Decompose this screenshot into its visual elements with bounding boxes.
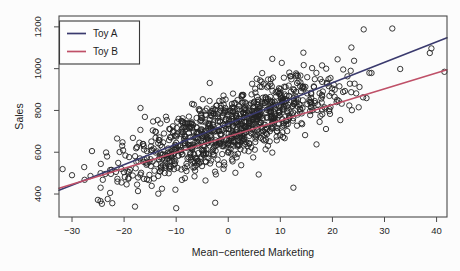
scatter-point — [107, 190, 112, 195]
scatter-point — [349, 90, 354, 95]
scatter-point — [156, 191, 161, 196]
x-axis-label: Mean−centered Marketing — [192, 246, 314, 258]
scatter-point — [309, 65, 314, 70]
scatter-point — [274, 134, 279, 139]
scatter-point — [249, 81, 254, 86]
scatter-point — [233, 170, 238, 175]
scatter-point — [138, 127, 143, 132]
scatter-point — [354, 91, 359, 96]
scatter-plot: −30−20−1001020304040060080010001200 Toy … — [0, 0, 460, 271]
x-tick-label: 0 — [226, 225, 231, 236]
scatter-point — [349, 45, 354, 50]
legend-label-toy-b: Toy B — [93, 46, 118, 57]
scatter-point — [114, 136, 119, 141]
scatter-point — [152, 168, 157, 173]
scatter-point — [317, 119, 322, 124]
scatter-point — [132, 154, 137, 159]
scatter-point — [323, 126, 328, 131]
scatter-point — [186, 114, 191, 119]
scatter-point — [301, 62, 306, 67]
scatter-point — [314, 142, 319, 147]
scatter-point — [251, 155, 256, 160]
scatter-point — [347, 103, 352, 108]
scatter-point — [260, 70, 265, 75]
scatter-point — [138, 105, 143, 110]
scatter-point — [270, 56, 275, 61]
scatter-point — [200, 97, 205, 102]
x-tick-label: −10 — [168, 225, 184, 236]
scatter-point — [154, 162, 159, 167]
scatter-point — [192, 174, 197, 179]
scatter-point — [156, 173, 161, 178]
scatter-point — [296, 79, 301, 84]
scatter-point — [161, 131, 166, 136]
scatter-point — [149, 183, 154, 188]
x-tick-label: −30 — [64, 225, 80, 236]
scatter-point — [69, 173, 74, 178]
scatter-point — [82, 164, 87, 169]
scatter-point — [203, 178, 208, 183]
scatter-point — [164, 117, 169, 122]
y-tick-label: 800 — [32, 103, 43, 119]
scatter-point — [279, 60, 284, 65]
scatter-point — [319, 63, 324, 68]
scatter-point — [207, 98, 212, 103]
scatter-point — [110, 201, 115, 206]
legend: Toy A Toy B — [60, 21, 140, 64]
scatter-point — [300, 98, 305, 103]
x-tick-label: 40 — [431, 225, 442, 236]
scatter-point — [220, 151, 225, 156]
scatter-point — [398, 66, 403, 71]
x-tick-label: 20 — [327, 225, 338, 236]
scatter-point — [60, 166, 65, 171]
scatter-point — [189, 101, 194, 106]
scatter-point — [142, 114, 147, 119]
scatter-point — [130, 135, 135, 140]
scatter-point — [270, 150, 275, 155]
scatter-point — [390, 26, 395, 31]
scatter-point — [341, 67, 346, 72]
scatter-point — [291, 185, 296, 190]
scatter-point — [357, 84, 362, 89]
scatter-point — [105, 196, 110, 201]
scatter-point — [239, 163, 244, 168]
scatter-point — [159, 186, 164, 191]
scatter-point — [294, 80, 299, 85]
scatter-point — [348, 68, 353, 73]
x-tick-label: −20 — [116, 225, 132, 236]
scatter-point — [257, 78, 262, 83]
scatter-point — [133, 166, 138, 171]
scatter-point — [356, 105, 361, 110]
y-axis-label: Sales — [13, 103, 25, 129]
scatter-point — [98, 185, 103, 190]
scatter-point — [314, 70, 319, 75]
y-tick-label: 600 — [32, 144, 43, 160]
scatter-point — [351, 58, 356, 63]
scatter-point — [221, 166, 226, 171]
scatter-point — [335, 57, 340, 62]
y-tick-label: 1000 — [32, 58, 43, 79]
scatter-point — [135, 188, 140, 193]
scatter-point — [98, 161, 103, 166]
legend-label-toy-a: Toy A — [93, 28, 118, 39]
scatter-point — [281, 75, 286, 80]
scatter-point — [230, 91, 235, 96]
scatter-point — [340, 89, 345, 94]
scatter-point — [134, 182, 139, 187]
scatter-point — [312, 77, 317, 82]
figure: −30−20−1001020304040060080010001200 Toy … — [0, 0, 460, 271]
scatter-point — [174, 206, 179, 211]
scatter-point — [256, 172, 261, 177]
scatter-point — [254, 76, 259, 81]
scatter-point — [301, 50, 306, 55]
scatter-point — [132, 204, 137, 209]
scatter-point — [215, 157, 220, 162]
x-tick-label: 10 — [275, 225, 286, 236]
scatter-point — [207, 80, 212, 85]
scatter-point — [124, 182, 129, 187]
scatter-point — [100, 177, 105, 182]
y-tick-label: 1200 — [32, 16, 43, 37]
scatter-point — [213, 200, 218, 205]
y-tick-label: 400 — [32, 186, 43, 202]
scatter-point — [305, 75, 310, 80]
